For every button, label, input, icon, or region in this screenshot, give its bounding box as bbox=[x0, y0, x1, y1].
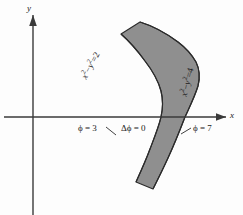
y-axis-label: y bbox=[27, 4, 31, 13]
y-axis-arrowhead bbox=[29, 15, 37, 26]
x-axis-arrowhead bbox=[216, 113, 226, 121]
x-axis-label: x bbox=[230, 111, 234, 120]
hyperbolic-region-figure: x2−y2=2 x2−y2=4 ϕ = 3 ϕ = 7 Δϕ = 0 x y bbox=[0, 0, 243, 215]
delta-phi-label: Δϕ = 0 bbox=[121, 124, 146, 133]
phi-right-leader-line bbox=[181, 128, 191, 134]
phi-left-label: ϕ = 3 bbox=[78, 124, 97, 133]
figure-canvas bbox=[0, 0, 243, 215]
shaded-region bbox=[121, 22, 199, 189]
phi-left-leader-line bbox=[106, 127, 116, 135]
phi-right-label: ϕ = 7 bbox=[193, 124, 212, 133]
